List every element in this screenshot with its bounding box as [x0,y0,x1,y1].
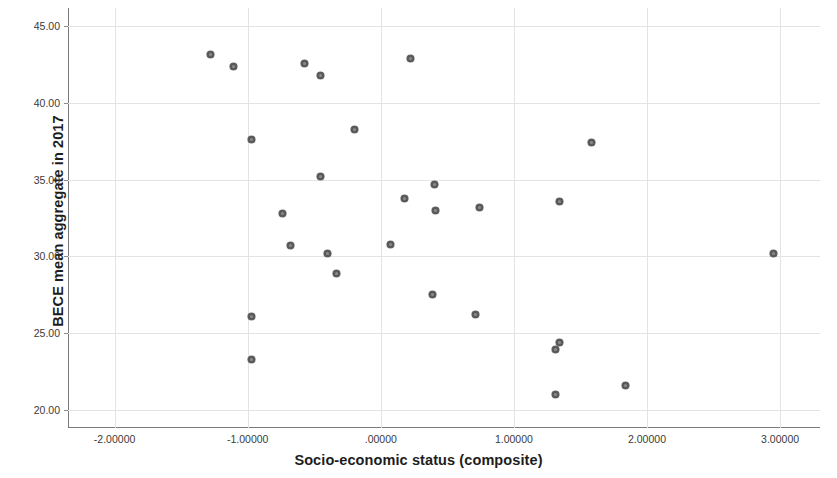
scatter-point [207,51,214,58]
gridline-vertical [381,8,382,428]
scatter-point [552,346,559,353]
x-tick-label: 1.00000 [495,433,533,445]
gridline-horizontal [68,103,820,104]
x-tick-label: -1.00000 [227,433,268,445]
y-axis-title: BECE mean aggregate in 2017 [50,71,66,371]
y-tick-mark [64,26,68,27]
y-tick-label: 45.00 [34,20,60,32]
y-tick-mark [64,180,68,181]
scatter-point [248,356,255,363]
gridline-horizontal [68,26,820,27]
scatter-point [472,311,479,318]
x-axis-title: Socio-economic status (composite) [0,452,837,468]
scatter-point [333,270,340,277]
scatter-point [287,242,294,249]
scatter-point [770,250,777,257]
y-tick-label: 35.00 [34,174,60,186]
x-tick-label: -2.00000 [94,433,135,445]
gridline-horizontal [68,410,820,411]
scatter-point [476,204,483,211]
y-tick-mark [64,103,68,104]
plot-area: -2.00000-1.00000.000001.000002.000003.00… [68,8,820,428]
scatter-point [431,181,438,188]
x-tick-label: 3.00000 [761,433,799,445]
gridline-horizontal [68,333,820,334]
gridline-vertical [248,8,249,428]
scatter-point [387,241,394,248]
y-tick-label: 25.00 [34,327,60,339]
scatter-point [301,60,308,67]
scatter-point [279,210,286,217]
scatter-point [556,198,563,205]
y-tick-mark [64,333,68,334]
y-tick-mark [64,410,68,411]
x-axis-line [68,427,820,428]
scatter-point [317,72,324,79]
y-tick-mark [64,256,68,257]
scatter-point [588,139,595,146]
x-tick-label: 2.00000 [628,433,666,445]
scatter-point [324,250,331,257]
scatter-point [552,391,559,398]
gridline-horizontal [68,180,820,181]
scatter-plot-figure: BECE mean aggregate in 2017 Socio-econom… [0,0,837,478]
scatter-point [407,55,414,62]
scatter-point [432,207,439,214]
gridline-horizontal [68,256,820,257]
scatter-point [248,313,255,320]
y-tick-label: 40.00 [34,97,60,109]
gridline-vertical [647,8,648,428]
gridline-vertical [514,8,515,428]
scatter-point [230,63,237,70]
gridline-vertical [115,8,116,428]
scatter-point [429,291,436,298]
y-axis-line [68,8,69,428]
scatter-point [351,126,358,133]
scatter-point [248,136,255,143]
gridline-vertical [780,8,781,428]
y-tick-label: 30.00 [34,250,60,262]
x-tick-label: .00000 [365,433,397,445]
scatter-point [556,339,563,346]
scatter-point [401,195,408,202]
y-tick-label: 20.00 [34,404,60,416]
scatter-point [622,382,629,389]
